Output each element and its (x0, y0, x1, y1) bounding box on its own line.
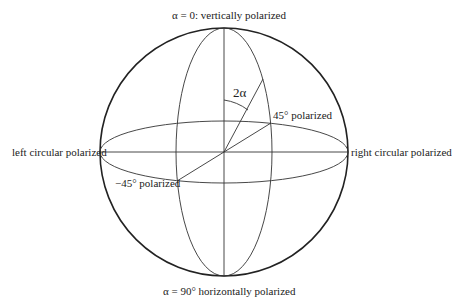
label-right-circular: right circular polarized (351, 147, 452, 158)
poincare-sphere-diagram: α = 0: vertically polarized α = 90° hori… (0, 0, 452, 305)
label-left-circular: left circular polarized (12, 147, 107, 158)
label-vertical-polarized: α = 0: vertically polarized (172, 10, 286, 21)
angle-arc (224, 100, 248, 110)
label-horizontal-polarized: α = 90° horizontally polarized (163, 286, 295, 297)
label-angle-2alpha: 2α (233, 86, 246, 99)
label-45-polarized: 45° polarized (273, 110, 332, 121)
label-minus-45-polarized: −45° polarized (115, 178, 180, 189)
